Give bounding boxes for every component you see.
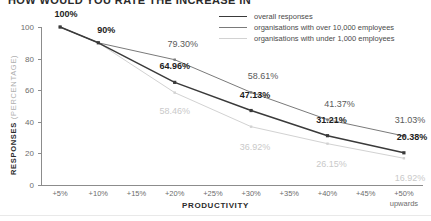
- data-point-label: 16.92%: [395, 173, 426, 183]
- data-point-label: 36.92%: [240, 142, 271, 152]
- data-point-label: 58.46%: [159, 106, 190, 116]
- data-point-label: 79.30%: [167, 39, 198, 49]
- series-plot: [0, 0, 431, 221]
- data-point-label: 64.96%: [159, 61, 190, 71]
- data-point-label: 20.38%: [397, 132, 428, 142]
- footer-divider: [0, 215, 431, 216]
- chart-root: HOW WOULD YOU RATE THE INCREASE IN RESPO…: [0, 0, 431, 221]
- series-line: [60, 27, 404, 158]
- data-point-marker[interactable]: [326, 134, 329, 137]
- data-point-label: 90%: [97, 25, 115, 35]
- data-point-marker[interactable]: [59, 25, 62, 28]
- data-point-label: 100%: [55, 9, 78, 19]
- data-point-label: 47.13%: [240, 90, 271, 100]
- data-point-label: 31.03%: [395, 115, 426, 125]
- data-point-marker[interactable]: [174, 91, 176, 93]
- data-point-marker[interactable]: [403, 157, 405, 159]
- data-point-label: 41.37%: [324, 99, 355, 109]
- data-point-label: 31.21%: [316, 115, 347, 125]
- data-point-marker[interactable]: [250, 125, 252, 127]
- data-point-marker[interactable]: [402, 151, 405, 154]
- data-point-label: 58.61%: [248, 71, 279, 81]
- data-point-marker[interactable]: [250, 109, 253, 112]
- data-point-marker[interactable]: [97, 41, 100, 44]
- data-point-marker[interactable]: [326, 142, 328, 144]
- series-line: [60, 27, 404, 136]
- data-point-marker[interactable]: [173, 81, 176, 84]
- data-point-label: 26.15%: [316, 159, 347, 169]
